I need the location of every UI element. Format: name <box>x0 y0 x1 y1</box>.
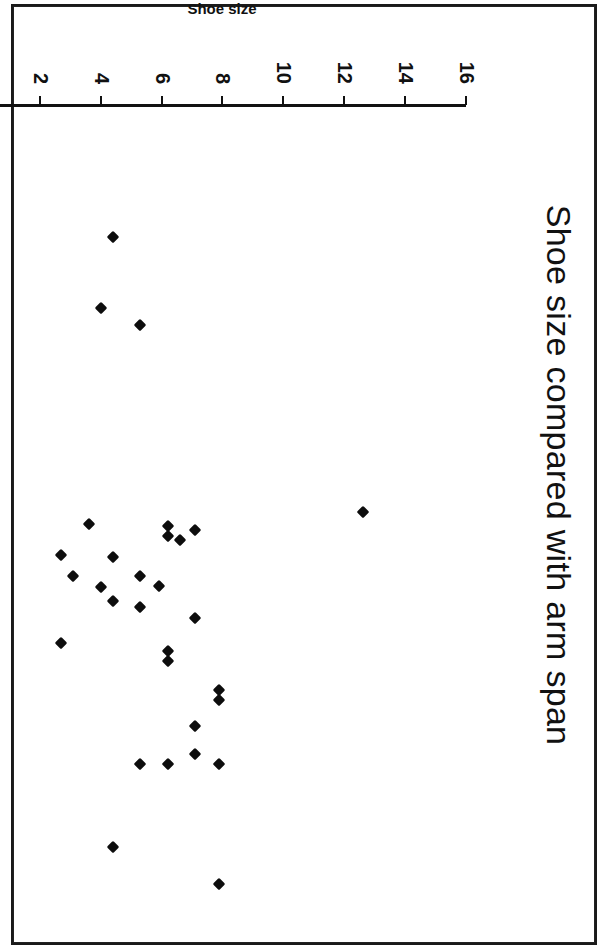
rotated-chart-wrapper: Shoe size compared with arm span 100.011… <box>24 30 584 920</box>
data-point <box>213 878 226 891</box>
y-tick-label: 12 <box>333 62 356 84</box>
y-tick-label: 16 <box>455 62 478 84</box>
data-point <box>213 684 226 697</box>
data-point <box>134 319 147 332</box>
y-tick-label: 6 <box>150 73 173 84</box>
data-point <box>161 519 174 532</box>
y-tick <box>100 96 102 105</box>
y-tick <box>404 96 406 105</box>
data-point <box>134 601 147 614</box>
data-point <box>189 524 202 537</box>
data-point <box>94 302 107 315</box>
chart-title: Shoe size compared with arm span <box>539 30 578 920</box>
data-point <box>189 611 202 624</box>
data-point <box>189 720 202 733</box>
y-tick <box>343 96 345 105</box>
data-point <box>161 757 174 770</box>
y-tick <box>39 96 41 105</box>
y-tick <box>161 96 163 105</box>
data-point <box>82 517 95 530</box>
data-point <box>67 570 80 583</box>
y-tick-label: 14 <box>394 62 417 84</box>
data-point <box>161 645 174 658</box>
data-point <box>55 548 68 561</box>
y-axis-line <box>0 104 466 107</box>
data-point <box>134 757 147 770</box>
y-tick <box>465 96 467 105</box>
y-tick <box>222 96 224 105</box>
y-tick-label: 2 <box>28 73 51 84</box>
plot-area: 100.0110.0120.0130.0140.0150.0160.0170.0… <box>0 104 466 940</box>
data-point <box>134 570 147 583</box>
y-tick-label: 10 <box>272 62 295 84</box>
scanned-page: Shoe size compared with arm span 100.011… <box>0 0 608 950</box>
data-point <box>189 748 202 761</box>
data-point <box>107 551 120 564</box>
data-point <box>107 595 120 608</box>
y-tick-label: 4 <box>89 73 112 84</box>
data-point <box>94 581 107 594</box>
scatter-chart: Shoe size compared with arm span 100.011… <box>24 30 584 920</box>
y-tick <box>282 96 284 105</box>
y-tick-label: 8 <box>211 73 234 84</box>
data-point <box>213 757 226 770</box>
data-point <box>152 580 165 593</box>
data-point <box>107 230 120 243</box>
data-point <box>174 533 187 546</box>
y-axis-title: Shoe size <box>188 0 257 17</box>
data-point <box>356 505 369 518</box>
data-point <box>107 841 120 854</box>
data-point <box>55 636 68 649</box>
